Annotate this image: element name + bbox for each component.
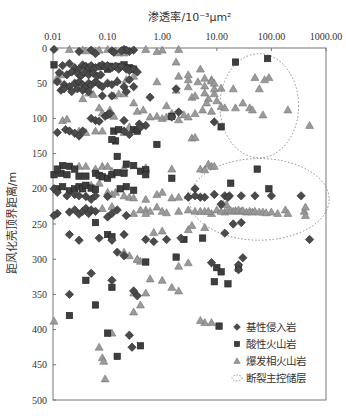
data-point-diamond [239, 254, 247, 262]
data-point-triangle [175, 262, 183, 269]
data-point-diamond [65, 290, 73, 298]
data-point-diamond [95, 234, 103, 242]
data-point-square [266, 186, 272, 192]
y-axis-title: 距风化壳顶界距离/m [5, 172, 19, 274]
data-point-triangle [229, 85, 237, 92]
data-point-triangle [175, 207, 183, 214]
data-point-square [114, 169, 120, 175]
data-point-triangle [65, 45, 73, 52]
legend-label: 断裂主控储层 [246, 372, 306, 384]
data-point-triangle [217, 84, 225, 91]
data-point-triangle [213, 97, 221, 104]
data-point-diamond [129, 83, 137, 91]
data-point-triangle [239, 99, 247, 106]
data-point-square [228, 180, 234, 186]
data-point-square [76, 173, 82, 179]
data-point-diamond [267, 192, 275, 200]
data-point-square [254, 166, 260, 172]
data-point-diamond [87, 269, 95, 277]
data-point-square [83, 277, 89, 283]
x-tick-label: 100.00 [258, 31, 286, 42]
data-point-diamond [125, 331, 133, 339]
data-point-triangle [146, 275, 154, 282]
data-point-triangle [133, 107, 141, 114]
data-point-diamond [162, 235, 170, 243]
data-point-triangle [259, 111, 267, 118]
data-point-diamond [120, 230, 128, 238]
data-point-diamond [305, 235, 313, 243]
data-point-square [199, 235, 205, 241]
y-tick-label: 500 [32, 395, 47, 406]
data-point-triangle [201, 74, 209, 81]
data-point-diamond [237, 192, 245, 200]
data-point-triangle [251, 74, 259, 81]
x-tick-label: 1.00 [153, 31, 171, 42]
data-point-square [66, 312, 72, 318]
data-point-diamond [251, 192, 259, 200]
y-tick-label: 150 [32, 148, 47, 159]
legend-marker-square [234, 341, 239, 346]
ellipse-fault-controlled-reservoir [220, 54, 299, 158]
data-point-diamond [229, 220, 237, 228]
data-point-triangle [172, 58, 180, 65]
data-point-triangle [255, 85, 263, 92]
x-tick-label: 10.00 [206, 31, 229, 42]
data-point-triangle [163, 102, 171, 109]
data-point-triangle [267, 208, 275, 215]
data-point-square [92, 302, 98, 308]
y-tick-label: 350 [32, 289, 47, 300]
data-point-triangle [184, 259, 192, 266]
y-tick-label: 50 [37, 78, 47, 89]
data-point-diamond [210, 190, 218, 198]
data-point-square [264, 55, 270, 61]
data-point-triangle [142, 195, 150, 202]
x-tick-label: 0.01 [44, 31, 62, 42]
data-point-square [109, 284, 115, 290]
data-point-square [104, 330, 110, 336]
data-point-diamond [122, 211, 130, 219]
data-point-square [130, 162, 136, 168]
data-point-square [169, 175, 175, 181]
data-point-diamond [98, 92, 106, 100]
data-point-triangle [175, 45, 183, 52]
data-point-triangle [91, 127, 99, 134]
data-point-square [137, 343, 143, 349]
data-point-square [232, 59, 238, 65]
legend-label: 基性侵入岩 [246, 321, 296, 333]
data-point-triangle [158, 276, 166, 283]
data-point-diamond [146, 93, 154, 101]
data-point-square [114, 153, 120, 159]
data-point-square [123, 161, 129, 167]
legend-label: 爆发相火山岩 [246, 355, 306, 367]
data-point-triangle [191, 109, 199, 116]
data-point-triangle [208, 319, 216, 326]
data-point-square [130, 187, 136, 193]
data-point-triangle [95, 343, 103, 350]
data-point-square [143, 172, 149, 178]
data-point-diamond [65, 230, 73, 238]
data-point-square [218, 124, 224, 130]
data-point-triangle [201, 82, 209, 89]
data-point-square [154, 141, 160, 147]
data-point-square [72, 166, 78, 172]
data-point-square [92, 219, 98, 225]
y-tick-label: 200 [32, 183, 47, 194]
data-point-diamond [210, 118, 218, 126]
data-point-diamond [150, 237, 158, 245]
data-point-square [123, 183, 129, 189]
data-point-triangle [150, 228, 158, 235]
y-tick-label: 250 [32, 219, 47, 230]
data-point-square [173, 254, 179, 260]
data-point-square [117, 186, 123, 192]
data-point-square [121, 170, 127, 176]
data-point-triangle [274, 209, 282, 216]
data-point-triangle [153, 203, 161, 210]
data-point-triangle [158, 188, 166, 195]
x-axis-title: 渗透率/10⁻³μm² [148, 10, 231, 24]
data-point-diamond [142, 235, 150, 243]
x-tick-label: 0.10 [99, 31, 117, 42]
data-point-triangle [175, 193, 183, 200]
data-point-triangle [201, 224, 209, 231]
data-point-triangle [130, 308, 138, 315]
data-point-square [216, 323, 222, 329]
